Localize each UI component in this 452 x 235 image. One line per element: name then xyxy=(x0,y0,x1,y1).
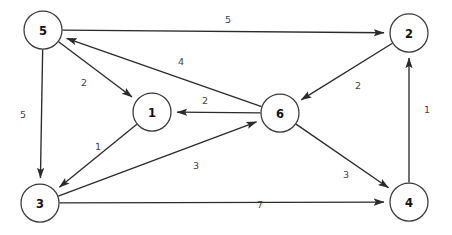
node-label-1: 1 xyxy=(148,106,156,120)
graph-node-1[interactable]: 1 xyxy=(133,93,171,131)
graph-edge-6-to-1 xyxy=(177,112,261,113)
edge-weight-3-6: 3 xyxy=(193,160,199,171)
edge-weight-5-3: 5 xyxy=(20,109,26,120)
graph-svg: 521634 54252211337 xyxy=(0,0,452,235)
edge-weight-2-6: 2 xyxy=(355,80,361,91)
edges-layer xyxy=(40,30,409,203)
graph-edge-2-to-6 xyxy=(301,43,392,100)
nodes-layer: 521634 xyxy=(21,11,428,222)
edge-weight-3-4: 7 xyxy=(257,199,263,210)
graph-node-6[interactable]: 6 xyxy=(261,94,299,132)
edge-weight-5-2: 5 xyxy=(225,14,231,25)
node-label-2: 2 xyxy=(405,27,413,41)
edge-weight-5-1: 2 xyxy=(81,77,87,88)
graph-edge-5-to-2 xyxy=(62,30,384,33)
node-label-3: 3 xyxy=(36,197,44,211)
node-label-6: 6 xyxy=(276,107,284,121)
graph-node-3[interactable]: 3 xyxy=(21,184,59,222)
graph-edge-6-to-5 xyxy=(67,38,262,106)
graph-edge-3-to-4 xyxy=(59,202,384,203)
graph-edge-1-to-3 xyxy=(59,124,136,187)
edge-weight-6-4: 3 xyxy=(343,169,349,180)
graph-edge-5-to-1 xyxy=(59,42,132,97)
graph-edge-3-to-6 xyxy=(58,122,256,196)
node-label-4: 4 xyxy=(405,196,413,210)
graph-diagram-canvas: 521634 54252211337 xyxy=(0,0,452,235)
graph-node-4[interactable]: 4 xyxy=(390,183,428,221)
graph-node-5[interactable]: 5 xyxy=(24,11,62,49)
graph-edge-5-to-3 xyxy=(40,49,42,178)
edge-weight-4-2: 1 xyxy=(424,104,430,115)
edge-weight-1-3: 1 xyxy=(95,141,101,152)
graph-node-2[interactable]: 2 xyxy=(390,14,428,52)
node-label-5: 5 xyxy=(39,24,47,38)
edge-weight-6-5: 4 xyxy=(178,56,184,67)
edge-weight-6-1: 2 xyxy=(202,95,208,106)
